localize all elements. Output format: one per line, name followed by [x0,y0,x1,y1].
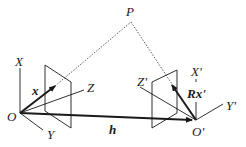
label-left-vector: x [31,83,39,98]
label-left-z-axis: Z [87,80,95,95]
label-right-z-axis: Z' [137,74,147,89]
label-baseline: h [109,122,116,137]
label-right-y-axis: Y' [226,98,236,113]
label-left-y-axis: Y [47,127,56,142]
epipolar-diagram: P O X Y Z x h O' X' Y' Z' Rx' [0,0,246,147]
baseline-h [20,113,192,120]
label-origin-right: O' [192,124,204,139]
label-right-vector: Rx' [186,86,206,101]
right-y-axis [196,104,223,120]
label-p: P [125,4,134,19]
label-origin-left: O [7,109,17,124]
label-left-x-axis: X [14,54,24,69]
ray-left-to-p [55,22,131,86]
label-right-x-axis: X' [190,64,202,79]
left-y-axis [20,113,43,130]
left-z-axis [20,90,84,113]
